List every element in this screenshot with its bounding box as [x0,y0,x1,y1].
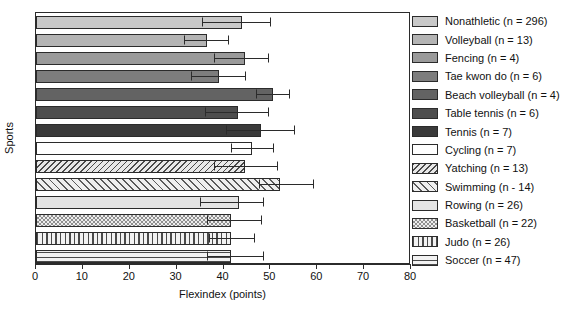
error-bar-line [207,256,263,257]
error-bar-cap-low [184,36,185,45]
x-axis-tick [363,264,364,269]
legend-label: Soccer (n = 47) [445,254,521,266]
bar-row [36,142,411,155]
x-axis-tick [410,264,411,269]
legend-item-volleyball[interactable]: Volleyball (n = 13) [412,30,578,48]
error-bar-cap-high [268,108,269,117]
x-axis-tick-label: 30 [170,270,182,282]
legend-swatch-solid [412,34,438,45]
error-bar-cap-low [226,126,227,135]
legend-item-rowing[interactable]: Rowing (n = 26) [412,196,578,214]
error-bar-cap-low [191,72,192,81]
error-bar-cap-high [228,36,229,45]
x-axis-tick-label: 60 [310,270,322,282]
bar-cycling [36,142,252,155]
legend-swatch-horizontal [412,255,438,266]
error-bar-cap-low [259,180,260,189]
error-bar-line [259,184,313,185]
legend-item-table-tennis[interactable]: Table tennis (n = 6) [412,104,578,122]
legend-item-soccer[interactable]: Soccer (n = 47) [412,251,578,269]
legend-item-nonathletic[interactable]: Nonathletic (n = 296) [412,12,578,30]
bar-judo [36,232,231,245]
error-bar-cap-low [207,216,208,225]
error-bar-line [209,238,254,239]
error-bar-line [231,148,273,149]
error-bar-cap-low [202,18,203,27]
x-axis-tick-label: 80 [404,270,416,282]
error-bar-cap-high [254,234,255,243]
bar-soccer [36,250,231,263]
error-bar-line [256,94,289,95]
error-bar-cap-low [205,108,206,117]
error-bar-cap-high [245,72,246,81]
bar-row [36,88,411,101]
legend-item-tae-kwon-do[interactable]: Tae kwon do (n = 6) [412,67,578,85]
x-axis-tick-label: 10 [76,270,88,282]
error-bar-cap-low [256,90,257,99]
legend-item-beach-volleyball[interactable]: Beach volleyball (n = 4) [412,86,578,104]
legend-item-basketball[interactable]: Basketball (n = 22) [412,214,578,232]
legend-item-fencing[interactable]: Fencing (n = 4) [412,49,578,67]
bar-row [36,196,411,209]
legend-swatch-vertical [412,236,438,247]
bars-layer [36,13,409,263]
legend-label: Nonathletic (n = 296) [445,15,547,27]
bar-row [36,16,411,29]
error-bar-cap-high [268,54,269,63]
x-axis-tick [269,264,270,269]
legend-label: Volleyball (n = 13) [445,34,533,46]
bar-swimming [36,178,280,191]
plot-area [35,12,410,264]
legend-item-swimming[interactable]: Swimming (n - 14) [412,178,578,196]
x-axis-tick-label: 70 [357,270,369,282]
error-bar-line [214,58,268,59]
error-bar-cap-high [277,162,278,171]
legend-swatch-speckle [412,200,438,211]
error-bar-line [205,112,268,113]
x-axis-tick [176,264,177,269]
error-bar-cap-high [270,18,271,27]
error-bar-cap-high [261,216,262,225]
error-bar-line [214,166,277,167]
legend-swatch-solid [412,52,438,63]
x-axis-tick [35,264,36,269]
bar-row [36,124,411,137]
legend-swatch-hatch-fwd [412,181,438,192]
error-bar-line [202,22,270,23]
legend-label: Tae kwon do (n = 6) [445,70,542,82]
error-bar-line [200,202,263,203]
error-bar-cap-low [214,162,215,171]
legend-label: Rowing (n = 26) [445,199,523,211]
bar-row [36,232,411,245]
legend-item-cycling[interactable]: Cycling (n = 7) [412,141,578,159]
bar-row [36,250,411,263]
x-axis-tick-label: 20 [123,270,135,282]
legend-label: Beach volleyball (n = 4) [445,89,560,101]
bar-beach-volleyball [36,88,273,101]
legend-label: Yatching (n = 13) [445,162,528,174]
legend-swatch-checker [412,218,438,229]
legend-label: Swimming (n - 14) [445,181,534,193]
error-bar-cap-high [289,90,290,99]
legend-item-judo[interactable]: Judo (n = 26) [412,233,578,251]
error-bar-line [226,130,294,131]
legend-label: Judo (n = 26) [445,236,510,248]
legend-item-tennis[interactable]: Tennis (n = 7) [412,122,578,140]
bar-row [36,178,411,191]
legend-item-yatching[interactable]: Yatching (n = 13) [412,159,578,177]
x-axis-tick [223,264,224,269]
y-axis-title: Sports [2,0,16,276]
error-bar-cap-high [263,198,264,207]
legend-swatch-solid [412,71,438,82]
error-bar-cap-high [263,252,264,261]
x-axis-tick [82,264,83,269]
x-axis-tick-label: 40 [216,270,228,282]
error-bar-line [184,40,229,41]
legend-label: Table tennis (n = 6) [445,107,539,119]
legend-label: Fencing (n = 4) [445,52,519,64]
legend-label: Cycling (n = 7) [445,144,516,156]
legend-label: Basketball (n = 22) [445,217,537,229]
x-axis-title: Flexindex (points) [35,288,410,300]
legend: Nonathletic (n = 296)Volleyball (n = 13)… [412,12,578,269]
error-bar-cap-low [214,54,215,63]
